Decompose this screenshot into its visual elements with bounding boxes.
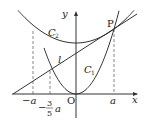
tick-frac-denominator: 5 bbox=[47, 109, 52, 118]
y-axis-arrow bbox=[74, 11, 78, 16]
tick-frac-sign: − bbox=[38, 102, 46, 113]
tick-frac-variable: a bbox=[55, 103, 61, 114]
tick-frac-numerator: 3 bbox=[47, 99, 52, 108]
curve-c1-subscript: 1 bbox=[91, 69, 95, 76]
point-p-label: P bbox=[107, 18, 114, 29]
y-axis-label: y bbox=[61, 8, 68, 19]
origin-label: O bbox=[67, 95, 75, 106]
line-l-label: l bbox=[58, 54, 61, 65]
diagram-svg: y x O P C 2 C 1 l a −a − 3 5 a bbox=[0, 0, 144, 122]
diagram: y x O P C 2 C 1 l a −a − 3 5 a bbox=[0, 0, 144, 122]
tick-a-label: a bbox=[110, 95, 116, 106]
line-l bbox=[13, 14, 137, 94]
tick-neg-a-label: −a bbox=[22, 95, 36, 106]
x-axis-label: x bbox=[132, 94, 138, 105]
curve-c2-subscript: 2 bbox=[55, 32, 59, 39]
